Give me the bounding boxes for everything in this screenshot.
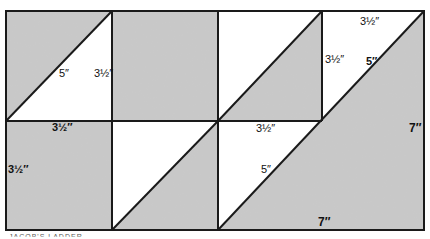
label-bottom-col3-top: 3½″ [256, 123, 275, 134]
label-bottom-col3-hypotenuse: 5″ [261, 164, 271, 175]
top-col2-gray-square [112, 11, 218, 121]
bottom-col1-gray-square [6, 121, 112, 230]
label-large-bottom: 7″ [318, 216, 330, 228]
label-top-right-top: 3½″ [360, 16, 379, 27]
label-large-right: 7″ [409, 122, 421, 134]
label-bottom-left-side: 3½″ [8, 164, 29, 175]
label-top-left-hypotenuse: 5″ [59, 68, 69, 79]
label-top-left-side: 3½″ [94, 68, 113, 79]
diagram-canvas [0, 0, 430, 239]
quilt-block-diagram: 5″ 3½″ 3½″ 3½″ 5″ 3½″ 3½″ 3½″ 5″ 7″ 7″ J… [0, 0, 430, 239]
label-top-right-hypotenuse: 5″ [366, 56, 377, 67]
label-top-right-side: 3½″ [325, 54, 344, 65]
label-bottom-left-top: 3½″ [52, 122, 73, 133]
